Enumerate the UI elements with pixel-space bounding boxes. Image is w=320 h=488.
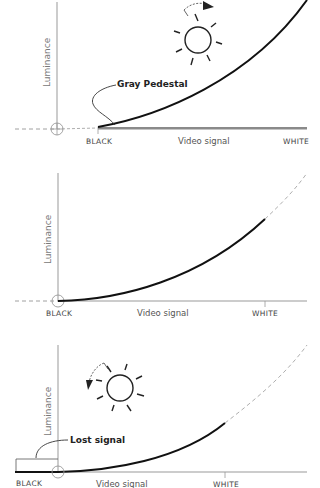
- lost-signal-leader-line: [36, 440, 68, 458]
- gray-pedestal-band: [98, 127, 307, 130]
- pedestal-leader-line: [92, 85, 116, 125]
- black-label: BLACK: [16, 479, 43, 488]
- white-label: WHITE: [252, 309, 278, 318]
- white-label: WHITE: [213, 480, 239, 488]
- rotate-clockwise-arrow-icon: [184, 1, 214, 16]
- sun-icon: [96, 364, 144, 411]
- lost-signal-label: Lost signal: [70, 435, 125, 445]
- x-axis-label: Video signal: [96, 479, 148, 488]
- curve-dashed-end: [265, 173, 307, 219]
- panel-1: Luminance Gray Pedestal BLACK Video sign…: [15, 0, 309, 146]
- rotate-counterclockwise-arrow-icon: [86, 363, 108, 390]
- sun-icon: [174, 14, 222, 65]
- black-label: BLACK: [86, 137, 113, 146]
- x-axis-label: Video signal: [137, 308, 189, 318]
- x-axis-label: Video signal: [178, 136, 230, 146]
- gray-pedestal-label: Gray Pedestal: [117, 79, 188, 89]
- y-axis-label: Luminance: [43, 386, 53, 436]
- y-axis-label: Luminance: [43, 214, 53, 264]
- y-axis-label: Luminance: [42, 37, 52, 87]
- transfer-curve: [98, 0, 307, 127]
- black-label: BLACK: [46, 309, 73, 318]
- gamma-pedestal-diagram: Luminance Gray Pedestal BLACK Video sign…: [0, 0, 320, 488]
- panel-2: Luminance BLACK Video signal WHITE: [15, 173, 307, 318]
- curve-dashed-end: [225, 345, 307, 423]
- transfer-curve: [58, 219, 265, 301]
- white-label: WHITE: [283, 137, 309, 146]
- panel-3: Luminance Lost signal BLACK Video signal…: [15, 345, 307, 488]
